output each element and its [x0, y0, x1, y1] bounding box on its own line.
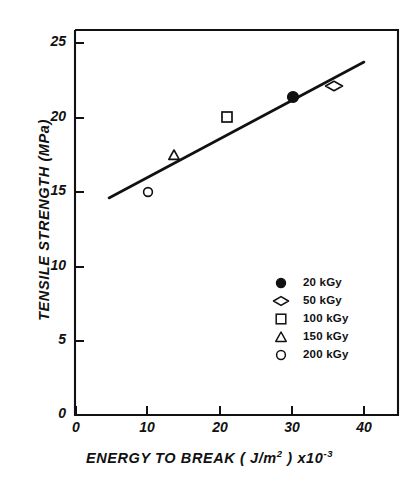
axes-frame [75, 30, 398, 415]
x-axis-title-exponent-scale: -3 [323, 448, 333, 459]
x-tick-label-30: 30 [272, 419, 312, 435]
legend-marker-filled-circle [276, 278, 285, 287]
legend-label-20-kgy: 20 kGy [303, 276, 342, 288]
figure-container: 0 5 10 15 20 25 0 10 20 30 40 ENERGY TO … [0, 0, 419, 489]
data-point-200-kgy [144, 188, 153, 197]
x-tick-label-40: 40 [344, 419, 384, 435]
legend-markers [274, 278, 289, 359]
y-axis-title: TENSILE STRENGTH (MPa) [36, 80, 52, 360]
x-tick-label-0: 0 [56, 419, 96, 435]
legend-marker-open-triangle [276, 332, 286, 341]
y-axis-ticks [75, 43, 84, 415]
x-axis-title: ENERGY TO BREAK ( J/m2 ) x10-3 [0, 448, 419, 466]
data-point-100-kgy [222, 112, 232, 122]
legend-label-100-kgy: 100 kGy [303, 312, 349, 324]
x-axis-title-main: ENERGY TO BREAK ( J/m [86, 450, 277, 466]
y-tick-label-25: 25 [26, 33, 66, 49]
data-point-20-kgy [288, 92, 299, 103]
data-point-150-kgy [169, 150, 179, 159]
plot-border [75, 30, 398, 415]
legend-label-150-kgy: 150 kGy [303, 330, 349, 342]
x-tick-label-20: 20 [200, 419, 240, 435]
x-axis-title-mid: ) x10 [283, 450, 324, 466]
legend-marker-open-circle [277, 351, 286, 360]
x-axis-ticks [76, 406, 364, 415]
legend-marker-open-diamond [274, 297, 289, 306]
trendline [109, 62, 364, 198]
x-tick-label-10: 10 [127, 419, 167, 435]
legend-label-200-kgy: 200 kGy [303, 348, 349, 360]
legend-label-50-kgy: 50 kGy [303, 294, 342, 306]
data-markers [144, 81, 343, 196]
legend-marker-open-square [276, 314, 286, 324]
